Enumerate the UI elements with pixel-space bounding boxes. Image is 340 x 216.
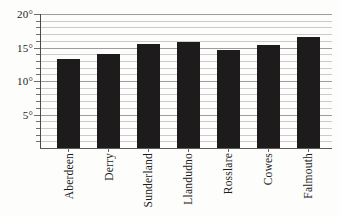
y-tick-label: 5° [9, 109, 33, 121]
y-tick [36, 128, 40, 129]
bar-llandudno [177, 42, 200, 148]
y-tick-label: 20° [9, 8, 33, 20]
x-tick [228, 148, 229, 152]
x-label-cowes: Cowes [261, 153, 275, 185]
y-tick [34, 14, 40, 15]
plot-area: 5°10°15°20°AberdeenDerrySunderlandLlandu… [0, 0, 340, 216]
y-tick [36, 74, 40, 75]
y-tick-label: 10° [9, 75, 33, 87]
y-tick-label: 15° [9, 42, 33, 54]
gridline-minor [41, 21, 332, 22]
x-tick [188, 148, 189, 152]
x-tick [148, 148, 149, 152]
bar-derry [97, 54, 120, 148]
bar-falmouth [297, 37, 320, 148]
gridline-minor [41, 34, 332, 35]
x-tick [268, 148, 269, 152]
x-label-sunderland: Sunderland [141, 153, 155, 207]
y-tick [36, 101, 40, 102]
x-tick [68, 148, 69, 152]
gridline-major [41, 14, 332, 15]
y-tick [36, 27, 40, 28]
x-label-derry: Derry [102, 153, 116, 181]
x-tick [108, 148, 109, 152]
y-tick [36, 121, 40, 122]
x-tick [308, 148, 309, 152]
bar-rosslare [217, 50, 240, 148]
bar-cowes [257, 45, 280, 148]
y-tick [36, 108, 40, 109]
y-tick [34, 48, 40, 49]
bar-aberdeen [57, 59, 80, 148]
y-tick [36, 88, 40, 89]
y-tick [36, 61, 40, 62]
y-tick [36, 34, 40, 35]
x-label-rosslare: Rosslare [221, 153, 235, 194]
y-tick [36, 54, 40, 55]
y-tick [36, 94, 40, 95]
y-tick [36, 141, 40, 142]
temperature-bar-chart: 5°10°15°20°AberdeenDerrySunderlandLlandu… [0, 0, 340, 216]
y-tick [36, 135, 40, 136]
y-tick [34, 81, 40, 82]
x-label-aberdeen: Aberdeen [62, 153, 76, 199]
y-tick [36, 21, 40, 22]
y-tick [36, 41, 40, 42]
y-tick [36, 68, 40, 69]
x-axis-line [40, 148, 332, 149]
gridline-minor [41, 27, 332, 28]
x-label-llandudno: Llandudno [181, 153, 195, 205]
bar-sunderland [137, 44, 160, 148]
x-label-falmouth: Falmouth [301, 153, 315, 199]
y-axis-line [40, 14, 41, 149]
y-tick [34, 115, 40, 116]
